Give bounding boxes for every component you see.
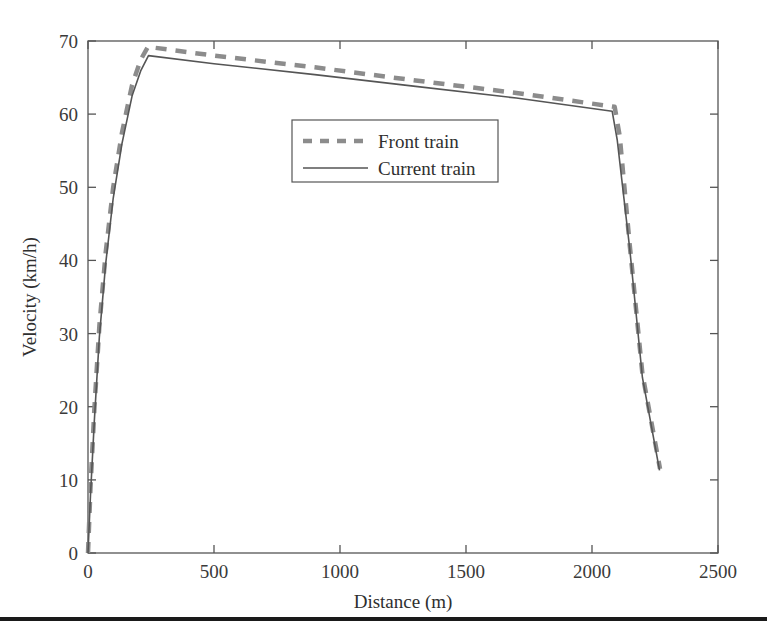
y-tick-label-10: 10 [59,470,78,491]
y-tick-label-40: 40 [59,250,78,271]
x-tick-label-0: 0 [83,561,93,582]
horizontal-rule [0,617,767,621]
y-tick-label-50: 50 [59,177,78,198]
y-tick-label-30: 30 [59,324,78,345]
x-tick-label-2500: 2500 [699,561,737,582]
x-tick-label-1500: 1500 [447,561,485,582]
x-axis-title: Distance (m) [354,591,453,613]
figure-background [0,0,767,644]
legend-label-current-train: Current train [378,158,476,179]
chart-svg: 0 10 20 30 40 50 60 70 Velocity (km/h) [0,0,767,644]
legend: Front train Current train [292,120,498,182]
y-tick-label-60: 60 [59,104,78,125]
x-tick-label-2000: 2000 [573,561,611,582]
x-tick-label-1000: 1000 [321,561,359,582]
page-footer [0,617,767,621]
y-tick-label-20: 20 [59,397,78,418]
y-tick-label-70: 70 [59,31,78,52]
y-axis-title: Velocity (km/h) [19,237,41,357]
velocity-distance-figure: 0 10 20 30 40 50 60 70 Velocity (km/h) [0,0,767,644]
legend-label-front-train: Front train [378,131,459,152]
y-tick-label-0: 0 [69,543,79,564]
x-tick-label-500: 500 [200,561,229,582]
